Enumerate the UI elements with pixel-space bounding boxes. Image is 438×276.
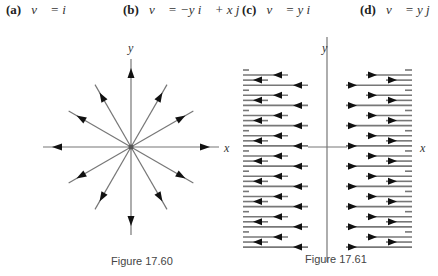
arrow-head-icon	[128, 68, 135, 78]
figure-caption: Figure 17.60	[111, 255, 173, 267]
arrow-head-icon	[388, 97, 397, 104]
arrow-head-icon	[348, 203, 357, 210]
arrow-head-icon	[293, 183, 302, 190]
arrow-head-icon	[293, 82, 302, 89]
arrow-head-icon	[368, 213, 377, 220]
y-axis-label: y	[321, 41, 328, 55]
arrow-head-icon	[388, 77, 397, 84]
arrow-head-icon	[154, 91, 165, 103]
arrow-head-icon	[75, 112, 87, 123]
arrow-head-icon	[253, 198, 262, 205]
arrow-head-icon	[368, 112, 377, 119]
arrow-head-icon	[293, 163, 302, 170]
arrow-head-icon	[253, 77, 262, 84]
arrow-head-icon	[128, 216, 135, 226]
origin-dot	[129, 145, 134, 150]
arrow-head-icon	[273, 213, 282, 220]
arrow-head-icon	[253, 218, 262, 225]
x-axis-label: x	[419, 141, 426, 155]
arrow-head-icon	[293, 203, 302, 210]
arrow-head-icon	[253, 117, 262, 124]
arrow-head-icon	[253, 158, 262, 165]
arrow-head-icon	[368, 173, 377, 180]
arrow-head-icon	[348, 223, 357, 230]
arrow-head-icon	[273, 193, 282, 200]
arrow-head-icon	[253, 137, 262, 144]
arrow-head-icon	[388, 117, 397, 124]
arrow-head-icon	[348, 82, 357, 89]
arrow-head-icon	[293, 102, 302, 109]
arrow-head-icon	[368, 193, 377, 200]
arrow-head-icon	[273, 153, 282, 160]
arrow-head-icon	[388, 198, 397, 205]
arrow-head-icon	[293, 223, 302, 230]
arrow-head-icon	[348, 163, 357, 170]
arrow-head-icon	[348, 244, 357, 251]
arrow-head-icon	[388, 239, 397, 246]
arrow-head-icon	[253, 97, 262, 104]
arrow-head-icon	[52, 144, 62, 151]
arrow-head-icon	[388, 178, 397, 185]
arrow-head-icon	[348, 102, 357, 109]
figure-caption: Figure 17.61	[305, 253, 367, 265]
arrow-head-icon	[368, 132, 377, 139]
arrow-head-icon	[253, 239, 262, 246]
arrow-head-icon	[273, 92, 282, 99]
arrow-head-icon	[273, 233, 282, 240]
arrow-head-icon	[368, 153, 377, 160]
arrow-head-icon	[388, 218, 397, 225]
arrow-head-icon	[175, 170, 187, 181]
arrow-head-icon	[388, 158, 397, 165]
arrow-head-icon	[348, 122, 357, 129]
arrow-head-icon	[200, 144, 210, 151]
arrow-head-icon	[253, 178, 262, 185]
arrow-head-icon	[368, 233, 377, 240]
y-axis-label: y	[127, 41, 134, 55]
arrow-head-icon	[96, 191, 107, 203]
arrow-head-icon	[75, 170, 87, 181]
arrow-head-icon	[368, 72, 377, 79]
arrow-head-icon	[273, 132, 282, 139]
arrow-head-icon	[293, 244, 302, 251]
arrow-head-icon	[96, 91, 107, 103]
arrow-head-icon	[368, 92, 377, 99]
figures-canvas: y x y x	[0, 0, 438, 276]
arrow-head-icon	[273, 112, 282, 119]
arrow-head-icon	[154, 191, 165, 203]
arrow-head-icon	[293, 122, 302, 129]
arrow-head-icon	[348, 183, 357, 190]
arrow-head-icon	[175, 112, 187, 123]
arrow-head-icon	[293, 142, 302, 149]
arrow-head-icon	[388, 137, 397, 144]
x-axis-label: x	[223, 141, 230, 155]
arrow-head-icon	[273, 173, 282, 180]
arrow-head-icon	[273, 72, 282, 79]
arrow-head-icon	[348, 142, 357, 149]
